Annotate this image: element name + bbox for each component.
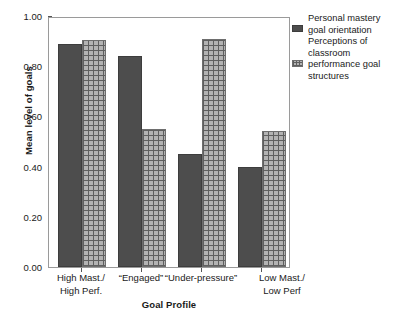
y-tick-1: 1.00 bbox=[12, 12, 42, 22]
legend-text-line: structures bbox=[308, 71, 399, 83]
y-tick-label: 0.80 bbox=[12, 62, 42, 72]
bar-mastery-low-mast-low-perf bbox=[238, 167, 262, 267]
bar-perceptions-under-pressure bbox=[202, 39, 226, 267]
x-tick-label-line1: “Under-pressure” bbox=[165, 272, 237, 283]
legend-swatch-solid-icon bbox=[292, 25, 303, 32]
y-tick-5: 0.20 bbox=[12, 213, 42, 223]
legend-text-line: Personal mastery bbox=[308, 13, 399, 25]
legend-text-line: performance goal bbox=[308, 59, 399, 71]
bar-perceptions-engaged bbox=[142, 129, 166, 267]
x-tick-label-line1: Low Mast./ bbox=[259, 272, 305, 283]
x-tick-label-under-pressure: “Under-pressure” bbox=[151, 272, 251, 285]
plot-area bbox=[48, 17, 290, 268]
legend-entry-perceptions-classroom: Perceptions of classroom performance goa… bbox=[292, 36, 399, 82]
x-tick-label-low-mast-low-perf: Low Mast./ Low Perf bbox=[241, 272, 323, 297]
legend-text-line: Perceptions of bbox=[308, 36, 399, 48]
bars-container bbox=[49, 18, 289, 267]
y-tick-label: 0.40 bbox=[12, 163, 42, 173]
x-axis-title: Goal Profile bbox=[48, 299, 290, 310]
legend-swatch-crosshatch-icon bbox=[292, 60, 303, 67]
y-axis-ticks: 1.00 0.80 0.60 0.40 0.20 0.00 bbox=[12, 17, 42, 268]
bar-mastery-high-mast-high-perf bbox=[58, 44, 82, 267]
bar-perceptions-low-mast-low-perf bbox=[262, 131, 286, 267]
bar-mastery-engaged bbox=[118, 56, 142, 267]
y-tick-2: 0.80 bbox=[12, 62, 42, 72]
y-tick-label: 0.20 bbox=[12, 213, 42, 223]
x-tick-label-line2: High Perf. bbox=[60, 285, 102, 296]
bar-mastery-under-pressure bbox=[178, 154, 202, 267]
bar-perceptions-high-mast-high-perf bbox=[82, 40, 106, 267]
y-tick-label: 1.00 bbox=[12, 12, 42, 22]
y-tick-label: 0.60 bbox=[12, 112, 42, 122]
x-tick-label-line1: High Mast./ bbox=[57, 272, 105, 283]
legend-entry-personal-mastery: Personal mastery goal orientation bbox=[292, 13, 399, 36]
legend-text-line: goal orientation bbox=[308, 25, 399, 37]
bar-chart-figure: Mean level of goals 1.00 0.80 0.60 0.40 … bbox=[0, 0, 399, 318]
x-tick-label-line2: Low Perf bbox=[263, 285, 301, 296]
chart-legend: Personal mastery goal orientation Percep… bbox=[292, 13, 399, 83]
y-tick-3: 0.60 bbox=[12, 112, 42, 122]
y-tick-4: 0.40 bbox=[12, 163, 42, 173]
legend-text-line: classroom bbox=[308, 48, 399, 60]
